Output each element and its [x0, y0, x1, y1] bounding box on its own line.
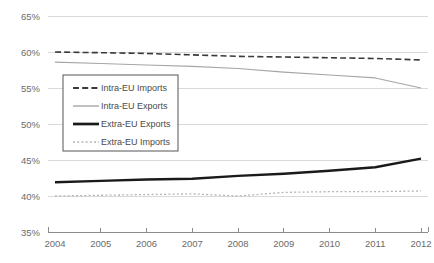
x-tick-label: 2012 [410, 238, 431, 249]
chart-legend: Intra-EU ImportsIntra-EU ExportsExtra-EU… [63, 75, 178, 151]
y-tick-label: 50% [21, 119, 41, 130]
y-tick-label: 65% [21, 11, 41, 22]
x-tick-label: 2006 [136, 238, 157, 249]
series-line-intra-eu-imports [55, 52, 421, 60]
x-axis-tick-labels: 200420052006200720082009201020112012 [44, 238, 431, 249]
chart-canvas: 35%40%45%50%55%60%65% 200420052006200720… [0, 0, 434, 263]
y-tick-label: 60% [21, 47, 41, 58]
y-axis-tick-labels: 35%40%45%50%55%60%65% [21, 11, 41, 238]
y-tick-label: 35% [21, 227, 41, 238]
series-line-extra-eu-imports [55, 191, 421, 196]
x-tick-label: 2011 [365, 238, 385, 249]
legend-label: Intra-EU Imports [101, 83, 168, 93]
legend-label: Extra-EU Imports [101, 137, 171, 147]
y-tick-label: 55% [21, 83, 41, 94]
series-line-extra-eu-exports [55, 159, 421, 183]
x-tick-label: 2005 [90, 238, 111, 249]
x-axis [48, 227, 428, 232]
x-tick-label: 2010 [319, 238, 340, 249]
x-tick-label: 2004 [44, 238, 65, 249]
x-tick-label: 2007 [182, 238, 203, 249]
x-tick-label: 2008 [227, 238, 248, 249]
y-tick-label: 40% [21, 191, 41, 202]
y-tick-label: 45% [21, 155, 41, 166]
legend-label: Intra-EU Exports [101, 101, 168, 111]
x-tick-label: 2009 [273, 238, 294, 249]
line-chart: 35%40%45%50%55%60%65% 200420052006200720… [0, 0, 434, 263]
legend-label: Extra-EU Exports [101, 119, 171, 129]
